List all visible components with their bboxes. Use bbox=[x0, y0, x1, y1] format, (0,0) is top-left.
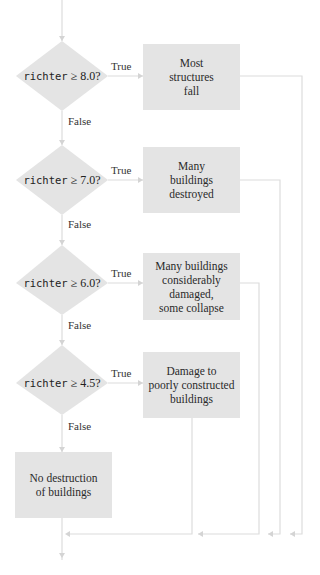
true-label-2: True bbox=[111, 164, 131, 176]
decision-2: richter ≥ 7.0? bbox=[14, 170, 110, 190]
decision-3-op: ≥ bbox=[71, 276, 78, 290]
true-label-4: True bbox=[111, 367, 131, 379]
decision-1-op: ≥ bbox=[71, 69, 78, 83]
false-label-1: False bbox=[68, 115, 91, 127]
decision-2-value: 7.0? bbox=[80, 173, 100, 187]
decision-3-value: 6.0? bbox=[80, 276, 100, 290]
decision-4: richter ≥ 4.5? bbox=[14, 373, 110, 393]
decision-1: richter ≥ 8.0? bbox=[14, 66, 110, 86]
true-label-3: True bbox=[111, 267, 131, 279]
else-outcome-box: No destruction of buildings bbox=[15, 452, 112, 518]
false-label-4: False bbox=[68, 420, 91, 432]
outcome-box-3: Many buildings considerably damaged, som… bbox=[143, 253, 240, 320]
decision-4-value: 4.5? bbox=[80, 376, 100, 390]
decision-2-op: ≥ bbox=[71, 173, 78, 187]
decision-1-value: 8.0? bbox=[80, 69, 100, 83]
decision-1-var: richter bbox=[23, 70, 67, 82]
outcome-box-1: Most structures fall bbox=[143, 44, 240, 110]
decision-3: richter ≥ 6.0? bbox=[14, 273, 110, 293]
decision-4-op: ≥ bbox=[71, 376, 78, 390]
true-label-1: True bbox=[111, 60, 131, 72]
outcome-box-2: Many buildings destroyed bbox=[143, 147, 240, 213]
false-label-2: False bbox=[68, 218, 91, 230]
decision-4-var: richter bbox=[23, 377, 67, 389]
decision-2-var: richter bbox=[23, 174, 67, 186]
false-label-3: False bbox=[68, 319, 91, 331]
decision-3-var: richter bbox=[23, 277, 67, 289]
flowchart: richter ≥ 8.0? richter ≥ 7.0? richter ≥ … bbox=[0, 0, 320, 575]
outcome-box-4: Damage to poorly constructed buildings bbox=[143, 352, 240, 418]
